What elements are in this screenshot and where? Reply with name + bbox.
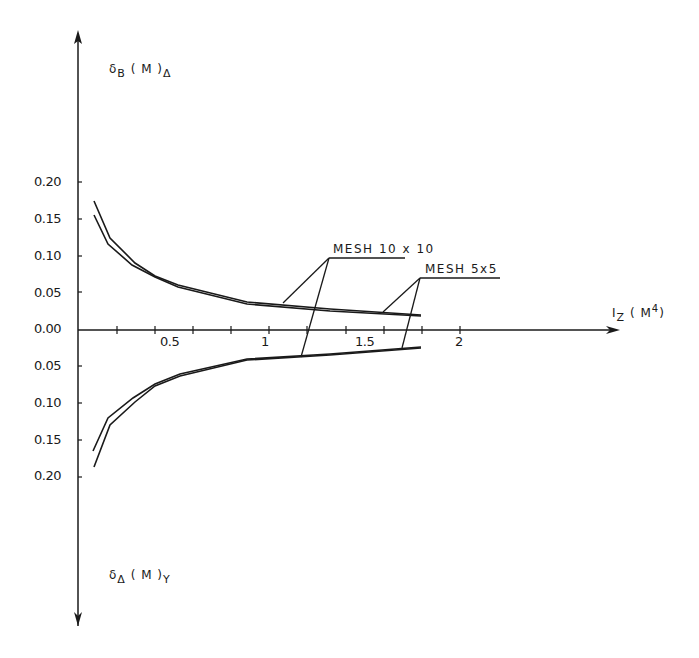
y-tick-label: 0.15 <box>34 432 61 447</box>
x-title-end: ) <box>659 306 665 320</box>
series-upper-mesh-5x5 <box>94 215 421 316</box>
series-lower-mesh-5x5 <box>94 348 421 467</box>
x-tick-label: 1 <box>261 334 269 349</box>
y-top-title-sub1: B <box>117 67 126 80</box>
x-title-unit: ( M <box>625 306 652 320</box>
y-bottom-axis-title: δΔ ( M )Y <box>109 568 171 586</box>
y-tick-label: 0.20 <box>34 174 61 189</box>
mesh-10x10-leader <box>283 258 405 357</box>
y-bottom-title-sub1: Δ <box>117 573 126 586</box>
x-tick-label: 0.5 <box>160 334 179 349</box>
y-bottom-title-unit: ( M ) <box>126 568 163 582</box>
x-title-sub: Z <box>617 311 626 324</box>
y-top-title-unit: ( M ) <box>126 62 163 76</box>
y-tick-label: 0.00 <box>34 321 61 336</box>
y-tick-label: 0.20 <box>34 468 61 483</box>
series-lower-mesh-10x10 <box>93 347 421 451</box>
y-tick-label: 0.10 <box>34 248 61 263</box>
x-tick-label: 1.5 <box>355 334 374 349</box>
y-tick-label: 0.10 <box>34 395 61 410</box>
x-tick-label: 2 <box>455 334 463 349</box>
y-top-title-sub2: Δ <box>163 67 172 80</box>
chart-canvas <box>0 0 699 658</box>
mesh-5x5-label: MESH 5x5 <box>425 262 498 276</box>
mesh-10x10-label: MESH 10 x 10 <box>333 242 435 256</box>
y-tick-label: 0.05 <box>34 285 61 300</box>
y-tick-label: 0.15 <box>34 211 61 226</box>
x-axis-title: IZ ( M4) <box>612 303 665 324</box>
y-tick-label: 0.05 <box>34 358 61 373</box>
y-bottom-title-sub2: Y <box>163 573 171 586</box>
y-top-axis-title: δB ( M )Δ <box>109 62 172 80</box>
